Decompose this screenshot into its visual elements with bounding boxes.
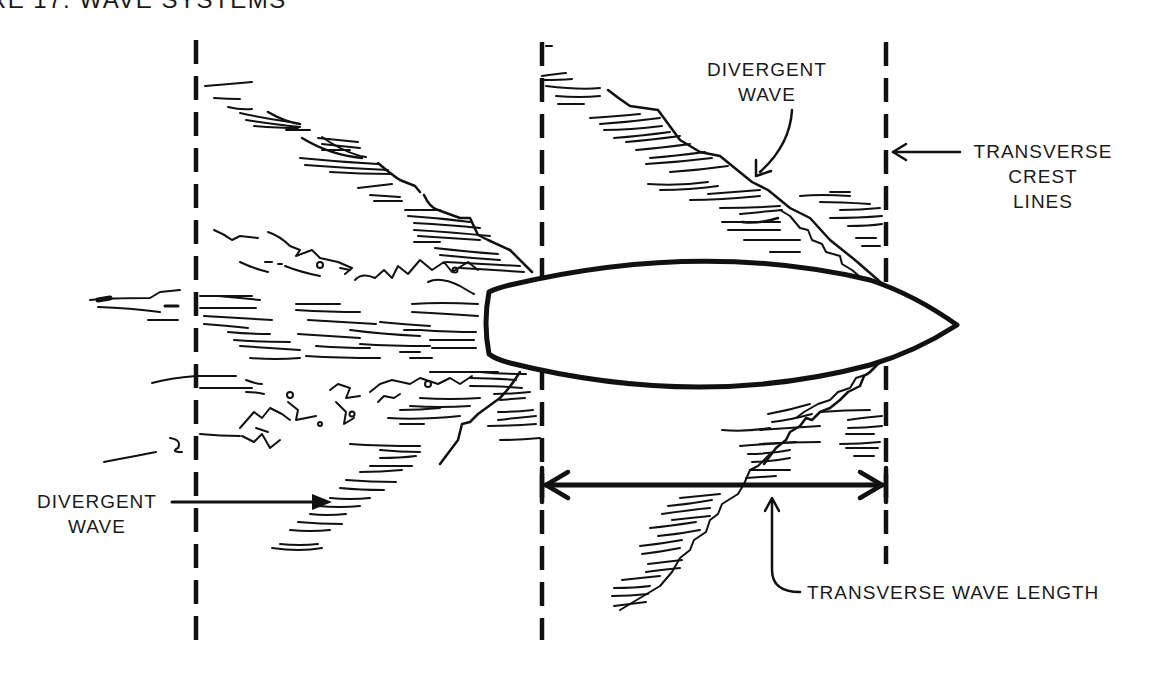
label-line: LINES <box>968 189 1118 214</box>
transverse-crest-lines-arrow <box>893 144 960 160</box>
label-line: WAVE <box>32 514 162 539</box>
label-line: DIVERGENT <box>32 489 162 514</box>
label-line: DIVERGENT <box>696 57 838 82</box>
transverse-wave-length-dimension <box>542 468 886 502</box>
divergent-wave-lower-left <box>104 372 540 550</box>
divergent-wave-top-arrow <box>756 110 792 176</box>
label-divergent-wave-left: DIVERGENT WAVE <box>32 489 162 539</box>
stern-wake <box>90 230 478 359</box>
label-transverse-wave-length: TRANSVERSE WAVE LENGTH <box>807 580 1099 605</box>
label-divergent-wave-top: DIVERGENT WAVE <box>696 57 838 107</box>
label-line: CREST <box>968 164 1118 189</box>
divergent-wave-left-arrow <box>172 494 332 510</box>
divergent-wave-upper-left <box>205 82 532 272</box>
label-line: WAVE <box>696 82 838 107</box>
label-transverse-crest-lines: TRANSVERSE CREST LINES <box>968 139 1118 214</box>
transverse-wave-length-leader <box>765 498 800 592</box>
divergent-wave-lower-right <box>612 354 890 610</box>
label-line: TRANSVERSE <box>968 139 1118 164</box>
